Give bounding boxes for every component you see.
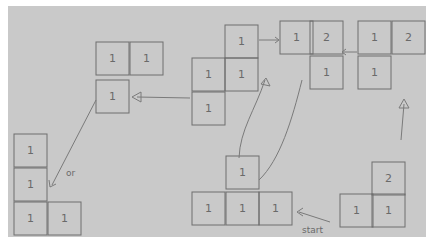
tile-value: 2: [385, 172, 392, 185]
tile-value: 1: [27, 212, 34, 225]
tile-value: 1: [27, 178, 34, 191]
arrow-s2-to-s4: [259, 80, 302, 180]
grid-state-s5: 121: [358, 21, 425, 89]
tile-value: 2: [405, 31, 412, 44]
start-label: start: [302, 225, 323, 235]
tile-value: 1: [353, 204, 360, 217]
arrow-start-to-s2: [299, 212, 330, 222]
tile-value: 1: [293, 31, 300, 44]
tile-value: 1: [27, 144, 34, 157]
arrow-s1-to-s5: [401, 104, 404, 140]
tile-value: 1: [239, 166, 246, 179]
diagram-canvas: 112111111111211211111111 or start: [0, 0, 435, 245]
grid-state-s4: 121: [280, 21, 343, 89]
tile-value: 1: [371, 66, 378, 79]
tile-value: 1: [239, 202, 246, 215]
tile-value: 1: [205, 68, 212, 81]
tile-value: 1: [371, 31, 378, 44]
tile-value: 1: [238, 68, 245, 81]
tile-value: 1: [205, 102, 212, 115]
tile-value: 2: [323, 31, 330, 44]
grid-state-s6: 111: [96, 42, 163, 113]
arrow-s2-to-s3: [239, 80, 265, 158]
tile-value: 1: [238, 35, 245, 48]
tile-value: 1: [323, 66, 330, 79]
tile-grids: 112111111111211211111111: [14, 21, 425, 235]
grid-state-s1: 112: [340, 162, 405, 227]
grid-state-s2: 1111: [192, 156, 292, 225]
grid-state-s3: 1111: [192, 25, 258, 125]
tile-value: 1: [61, 212, 68, 225]
tile-value: 1: [143, 52, 150, 65]
tile-value: 1: [109, 90, 116, 103]
tile-value: 1: [109, 52, 116, 65]
tile-value: 1: [205, 202, 212, 215]
tile-value: 1: [385, 204, 392, 217]
or-label: or: [66, 168, 76, 178]
arrow-s3-to-s6: [137, 97, 190, 98]
tile-value: 1: [272, 202, 279, 215]
